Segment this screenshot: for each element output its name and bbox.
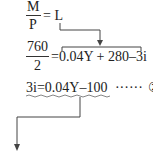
eq2-fraction-bar [26, 56, 49, 57]
eq1-rhs: = L [43, 9, 63, 23]
eq3-text: 3i=0.04Y–100 ······ ② [26, 81, 153, 95]
eq3-marker: ② [148, 80, 153, 95]
eq1-denominator: P [29, 18, 37, 32]
eq3-dots: ······ [115, 80, 143, 95]
eq3-equation: 3i=0.04Y–100 [26, 80, 107, 95]
eq1-numerator: M [27, 0, 39, 14]
eq1-fraction-bar [26, 15, 41, 16]
eq2-denominator: 2 [34, 59, 41, 73]
eq2-rhs: =0.04Y + 280–3i [51, 50, 147, 64]
eq2-numerator: 760 [27, 40, 48, 54]
